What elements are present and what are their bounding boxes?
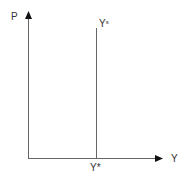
supply-curve-label: Ys (99, 19, 109, 29)
y-axis-label: P (11, 12, 18, 22)
y-axis-arrowhead-icon (25, 11, 32, 19)
diagram-canvas (0, 0, 192, 180)
supply-curve-label-base: Y (99, 18, 106, 29)
x-axis-label: Y (171, 154, 178, 164)
supply-curve-label-sup: s (106, 19, 109, 25)
x-axis-arrowhead-icon (155, 155, 163, 162)
x-tick-label: Y* (90, 163, 101, 173)
supply-diagram: P Y Ys Y* (0, 0, 192, 180)
